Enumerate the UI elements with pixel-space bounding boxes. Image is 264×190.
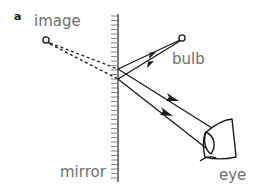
reflected-ray-group: [118, 69, 212, 148]
mirror-surface: [111, 14, 118, 182]
virtual-ray-upper: [50, 43, 118, 69]
panel-label-a: a: [14, 11, 21, 22]
arrowhead-reflected-lower: [160, 107, 173, 116]
virtual-ray-lower: [50, 44, 118, 79]
label-mirror: mirror: [60, 165, 106, 180]
mirror-hatch-marks: [111, 16, 117, 178]
ray-diagram-figure: a image bulb mirror eye: [0, 0, 264, 190]
image-point: [43, 37, 51, 44]
arrowhead-reflected-upper: [166, 93, 179, 101]
cornea-lens: [205, 132, 215, 154]
incident-ray-group: [118, 40, 180, 79]
eye-drawing: [200, 119, 236, 161]
incident-ray-lower: [118, 41, 180, 79]
reflected-ray-upper: [118, 69, 212, 128]
bulb-point: [179, 35, 185, 41]
label-bulb: bulb: [172, 52, 205, 67]
label-eye: eye: [219, 168, 246, 183]
virtual-ray-group: [50, 43, 118, 79]
label-image: image: [34, 14, 81, 29]
